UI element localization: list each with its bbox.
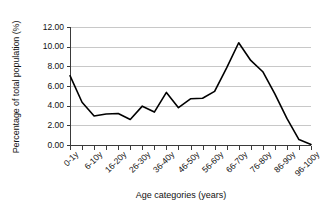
y-axis-tick-label: 12.00 [20,23,64,32]
data-series-line [70,27,311,145]
y-tick-mark [67,86,71,87]
y-tick-mark [67,27,71,28]
y-tick-mark [67,125,71,126]
population-age-distribution-chart: Percentage of total population (%) 0.002… [0,0,324,209]
x-axis-title: Age categories (years) [56,190,306,200]
y-axis-tick-label: 2.00 [20,121,64,130]
y-tick-mark [67,66,71,67]
y-axis-tick-label: 0.00 [20,141,64,150]
y-axis-tick-labels: 0.002.004.006.008.0010.0012.00 [20,22,64,146]
y-axis-tick-label: 6.00 [20,82,64,91]
y-tick-mark [67,106,71,107]
y-axis-tick-label: 10.00 [20,42,64,51]
x-axis-tick-labels: 0-1y6-10y16-20y26-30y36-40y46-50y56-60y6… [70,150,320,190]
y-axis-tick-label: 4.00 [20,101,64,110]
y-axis-tick-label: 8.00 [20,62,64,71]
plot-area [70,27,311,145]
y-tick-mark [67,47,71,48]
